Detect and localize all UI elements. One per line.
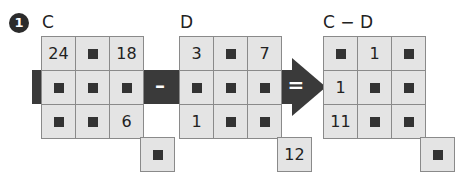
grid-cell (76, 37, 109, 70)
extra-cell-c (140, 137, 175, 172)
grid-cell: 24 (42, 37, 75, 70)
hidden-value-square-icon (404, 117, 414, 127)
hidden-value-square-icon (370, 117, 380, 127)
grid-cell (76, 105, 109, 138)
grid-cell (110, 71, 143, 104)
hidden-value-square-icon (260, 83, 270, 93)
grid-cell: 7 (248, 37, 281, 70)
grid-cell (180, 71, 213, 104)
grid-cell: 1 (180, 105, 213, 138)
grid-cell: 1 (324, 71, 357, 104)
result-grid-label: C − D (323, 12, 373, 32)
grid-cell (248, 105, 281, 138)
grid-cell (42, 71, 75, 104)
problem-number-badge: 1 (9, 13, 29, 33)
equals-operator: = (284, 73, 308, 97)
hidden-value-square-icon (88, 83, 98, 93)
grid-c-label: C (42, 12, 54, 32)
hidden-value-square-icon (192, 83, 202, 93)
hidden-value-square-icon (433, 150, 443, 160)
hidden-value-square-icon (370, 83, 380, 93)
hidden-value-square-icon (260, 117, 270, 127)
grid-cell (358, 105, 391, 138)
grid-cell: 11 (324, 105, 357, 138)
grid-result: 1111 (323, 36, 426, 139)
grid-cell (392, 71, 425, 104)
hidden-value-square-icon (88, 117, 98, 127)
grid-cell (392, 105, 425, 138)
hidden-value-square-icon (88, 49, 98, 59)
hidden-value-square-icon (153, 150, 163, 160)
grid-cell (392, 37, 425, 70)
grid-cell: 18 (110, 37, 143, 70)
grid-cell (214, 105, 247, 138)
grid-cell (248, 71, 281, 104)
minus-operator: – (148, 73, 172, 97)
hidden-value-square-icon (404, 83, 414, 93)
grid-cell (76, 71, 109, 104)
grid-cell: 1 (358, 37, 391, 70)
extra-cell-d: 12 (277, 137, 312, 172)
grid-cell: 6 (110, 105, 143, 138)
hidden-value-square-icon (226, 117, 236, 127)
grid-cell (358, 71, 391, 104)
grid-cell (214, 37, 247, 70)
grid-cell (42, 105, 75, 138)
hidden-value-square-icon (226, 83, 236, 93)
grid-cell (214, 71, 247, 104)
grid-d: 371 (179, 36, 282, 139)
grid-c: 24186 (41, 36, 144, 139)
hidden-value-square-icon (336, 49, 346, 59)
hidden-value-square-icon (54, 83, 64, 93)
grid-cell: 3 (180, 37, 213, 70)
grid-cell (324, 37, 357, 70)
hidden-value-square-icon (122, 83, 132, 93)
hidden-value-square-icon (404, 49, 414, 59)
grid-d-label: D (180, 12, 193, 32)
hidden-value-square-icon (54, 117, 64, 127)
extra-cell-result (420, 137, 455, 172)
hidden-value-square-icon (226, 49, 236, 59)
